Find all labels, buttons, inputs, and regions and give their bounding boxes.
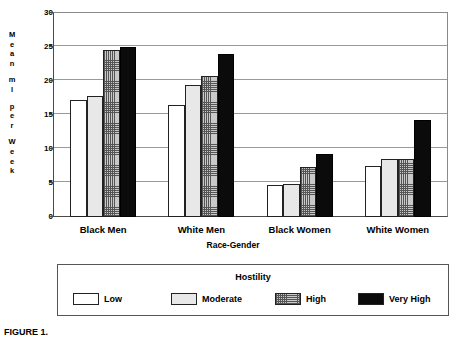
y-axis-title-char: n [4,59,20,69]
bar-black-women-very-high [316,154,333,217]
legend-swatch-low [73,293,99,305]
legend-box: Hostility LowModerateHighVery High [57,264,449,316]
y-axis-title-char: e [4,147,20,157]
legend-label: Moderate [202,294,242,305]
y-axis-tick-label: 30 [31,9,53,17]
x-axis-category-label: White Men [152,224,250,235]
y-axis-tick-label: 5 [31,179,53,187]
y-axis-tick-label: 15 [31,111,53,119]
y-axis-title-char: M [4,30,20,40]
figure-caption: FIGURE 1. [4,327,462,338]
y-axis-title: MeanmlperWeek [4,30,20,176]
y-axis-tick-label: 20 [31,77,53,85]
y-axis-title-gap [4,130,20,137]
bar-white-women-high [398,159,415,217]
y-axis-title-char: e [4,111,20,121]
x-axis-category-label: Black Women [251,224,349,235]
bar-white-men-high [201,76,218,217]
bar-black-women-low [267,185,284,217]
bar-white-men-very-high [218,54,235,217]
legend-swatch-very-high [358,293,384,305]
bar-white-women-moderate [381,159,398,217]
bar-group-black-men [54,13,152,217]
y-axis-title-char: e [4,157,20,167]
bar-black-women-moderate [283,184,300,217]
y-axis-title-gap [4,68,20,75]
bar-black-men-low [70,100,87,217]
bar-white-men-moderate [185,85,202,217]
y-axis-title-char: e [4,40,20,50]
figure-number: FIGURE 1. [4,327,48,337]
bar-group-white-women [349,13,447,217]
y-axis-tick-label: 10 [31,145,53,153]
figure-container: MeanmlperWeek 051015202530 Race-Gender H… [0,0,466,339]
legend-label: Very High [389,294,431,305]
bar-group-white-men [152,13,250,217]
y-axis-title-char: a [4,49,20,59]
legend-title: Hostility [58,272,448,282]
y-axis-tick-label: 0 [31,213,53,221]
y-axis-ticks: 051015202530 [25,12,53,218]
legend-swatch-high [275,293,301,305]
bar-black-men-moderate [87,96,104,217]
legend-swatch-moderate [171,293,197,305]
y-axis-title-char: l [4,85,20,95]
legend-label: Low [104,294,122,305]
x-axis-category-label: White Women [349,224,447,235]
y-axis-title-char: m [4,75,20,85]
y-axis-title-char: W [4,137,20,147]
legend-label: High [306,294,326,305]
y-axis-title-char: r [4,121,20,131]
y-axis-title-char: k [4,166,20,176]
x-axis-title: Race-Gender [0,240,466,250]
y-axis-title-char: p [4,102,20,112]
y-axis-tick-label: 25 [31,43,53,51]
bar-white-women-very-high [414,120,431,217]
bar-black-women-high [300,167,317,217]
bar-black-men-high [103,50,120,217]
bar-black-men-very-high [120,47,137,217]
bar-white-women-low [365,166,382,217]
y-axis-title-gap [4,95,20,102]
x-axis-category-label: Black Men [54,224,152,235]
bar-group-black-women [251,13,349,217]
bar-series-container [54,13,447,217]
bar-white-men-low [168,105,185,217]
